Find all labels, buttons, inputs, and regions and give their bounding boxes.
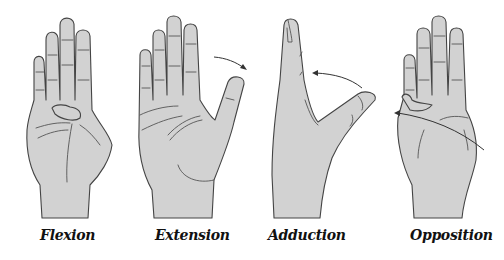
label-extension: Extension [155,227,225,243]
label-flexion: Flexion [40,227,95,243]
hand-opposition-illustration [380,0,504,220]
panel-extension: Extension [130,0,260,260]
hand-adduction-illustration [260,0,380,220]
hand-flexion-illustration [0,0,130,220]
panel-opposition: Opposition [380,0,504,260]
hand-extension-illustration [130,0,260,220]
label-opposition: Opposition [410,227,490,243]
label-adduction: Adduction [268,227,338,243]
panel-adduction: Adduction [260,0,380,260]
panel-flexion: Flexion [0,0,130,260]
